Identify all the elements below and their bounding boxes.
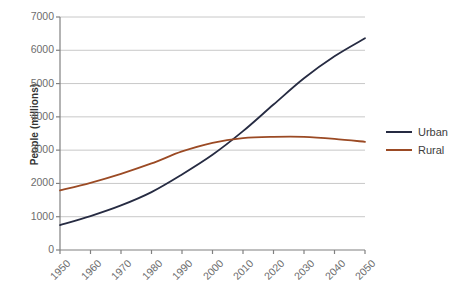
- legend-line-swatch: [386, 149, 412, 151]
- legend-label: Rural: [418, 144, 444, 156]
- line-chart: People (millions) 0100020003000400050006…: [0, 0, 457, 294]
- chart-legend: UrbanRural: [386, 123, 448, 159]
- legend-item[interactable]: Urban: [386, 123, 448, 141]
- legend-item[interactable]: Rural: [386, 141, 448, 159]
- legend-label: Urban: [418, 126, 448, 138]
- legend-line-swatch: [386, 131, 412, 133]
